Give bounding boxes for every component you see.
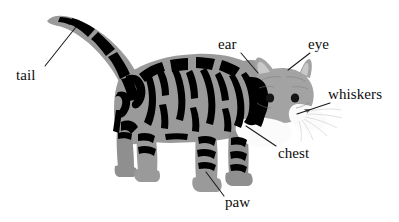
cat-muzzle-shape: [289, 104, 327, 130]
label-whiskers: whiskers: [328, 87, 382, 102]
leader-line-tail: [45, 27, 76, 66]
cat-front-paw-near: [192, 177, 221, 192]
label-paw: paw: [225, 195, 250, 210]
cat-eye-far: [266, 93, 274, 102]
label-ear: ear: [218, 37, 237, 52]
label-eye: eye: [308, 37, 329, 52]
cat-illustration: [0, 0, 399, 222]
cat-anatomy-diagram: tail ear eye whiskers chest paw: [0, 0, 399, 222]
cat-eye-near: [291, 93, 299, 102]
cat-body-group: [47, 16, 342, 192]
label-chest: chest: [278, 146, 309, 161]
cat-hind-paw-near: [134, 169, 160, 182]
label-tail: tail: [16, 68, 36, 83]
cat-front-paw-far: [225, 172, 252, 186]
